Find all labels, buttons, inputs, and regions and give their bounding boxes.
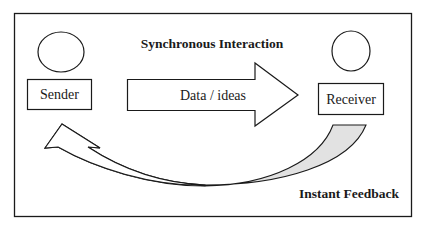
sender-head-icon [38, 32, 84, 72]
forward-arrow-label: Data / ideas [180, 88, 246, 103]
feedback-arrow-label: Instant Feedback [299, 186, 400, 201]
diagram-title: Synchronous Interaction [141, 36, 284, 51]
receiver-head-icon [332, 31, 370, 71]
feedback-arrow-head [45, 124, 205, 186]
receiver-label: Receiver [326, 92, 376, 107]
synchronous-interaction-diagram: Sender Receiver Synchronous Interaction … [0, 0, 425, 228]
sender-label: Sender [40, 87, 79, 102]
